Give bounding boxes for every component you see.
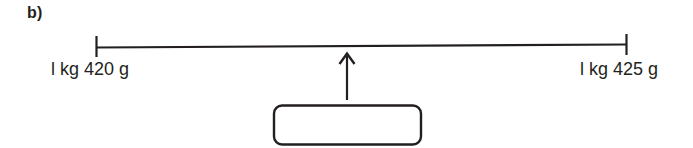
balance-scale-figure: b) l kg 420 g l kg 425 g xyxy=(0,0,693,148)
beam-right-label: l kg 425 g xyxy=(580,60,658,78)
beam-line xyxy=(96,45,627,48)
arrow-up-icon xyxy=(340,54,355,101)
beam-left-label: l kg 420 g xyxy=(51,60,129,78)
block-rounded-rectangle xyxy=(274,106,421,145)
